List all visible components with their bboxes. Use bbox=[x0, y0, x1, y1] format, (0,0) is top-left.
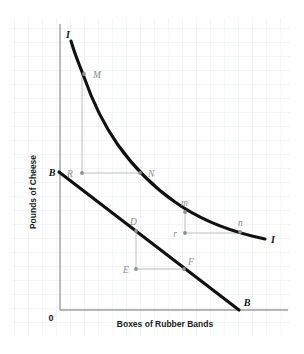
marker-N bbox=[138, 171, 142, 175]
y-axis-title: Pounds of Cheese bbox=[28, 155, 38, 229]
marker-F bbox=[182, 267, 186, 271]
label-point-F: F bbox=[187, 257, 194, 267]
x-axis-title: Boxes of Rubber Bands bbox=[117, 319, 214, 329]
marker-D bbox=[134, 229, 138, 233]
marker-m bbox=[183, 210, 187, 214]
label-point-m: m bbox=[181, 198, 188, 208]
figure-root: I I B B M R N m r n D E F Pounds of Chee… bbox=[0, 0, 304, 354]
label-budget-bottom: B bbox=[243, 297, 251, 308]
marker-r bbox=[183, 231, 187, 235]
indifference-curve-chart: I I B B M R N m r n D E F Pounds of Chee… bbox=[0, 0, 304, 354]
marker-R bbox=[80, 171, 84, 175]
label-point-M: M bbox=[92, 70, 102, 80]
label-point-E: E bbox=[122, 265, 129, 275]
marker-M bbox=[82, 72, 86, 76]
origin-label: 0 bbox=[48, 313, 53, 323]
label-point-r: r bbox=[173, 229, 177, 239]
label-budget-top: B bbox=[48, 167, 56, 178]
label-point-R: R bbox=[66, 169, 73, 179]
marker-E bbox=[134, 267, 138, 271]
label-point-N: N bbox=[147, 169, 155, 179]
label-point-n: n bbox=[238, 218, 243, 228]
label-point-D: D bbox=[129, 217, 137, 227]
marker-n bbox=[238, 230, 242, 234]
